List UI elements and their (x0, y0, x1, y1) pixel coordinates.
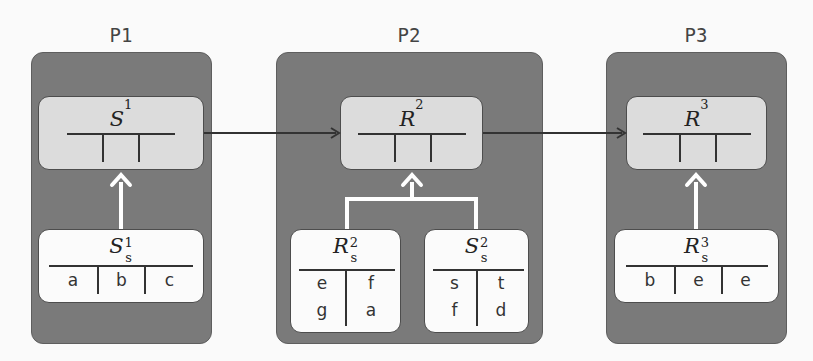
data-flow-arrow-r2-to-r3-icon (0, 0, 813, 361)
